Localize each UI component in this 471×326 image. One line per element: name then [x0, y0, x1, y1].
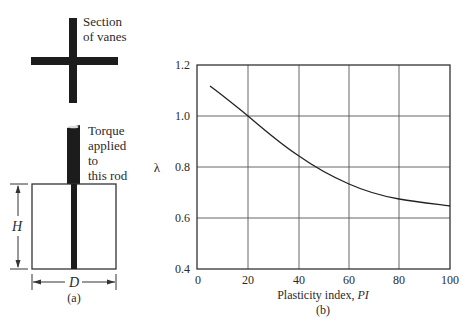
x-tick-0: 0	[195, 273, 201, 287]
x-tick-20: 20	[242, 273, 254, 287]
torque-rod	[67, 125, 80, 184]
x-tick-100: 100	[441, 273, 459, 287]
x-axis-label-text: Plasticity index,	[277, 288, 357, 302]
x-tick-40: 40	[293, 273, 305, 287]
y-tick-1.2: 1.2	[175, 58, 190, 72]
section-label-line2: of vanes	[83, 29, 127, 44]
x-axis-label: Plasticity index, PI	[277, 288, 370, 302]
lambda-curve	[210, 86, 450, 206]
torque-label-line1: Torque	[88, 123, 125, 138]
figure-a-caption: (a)	[67, 291, 80, 305]
y-axis-label: λ	[154, 160, 161, 175]
torque-label-line4: this rod	[88, 168, 128, 183]
vane-rod-inside	[71, 184, 77, 269]
y-tick-0.4: 0.4	[175, 262, 190, 276]
y-tick-0.8: 0.8	[175, 160, 190, 174]
y-tick-0.6: 0.6	[175, 211, 190, 225]
torque-label-line2: applied	[88, 138, 127, 153]
figure-b-caption: (b)	[316, 303, 330, 317]
x-tick-80: 80	[393, 273, 405, 287]
chart-gridlines	[197, 65, 450, 269]
torque-label-line3: to	[88, 153, 98, 168]
diameter-label: D	[68, 275, 79, 290]
figure-canvas: Section of vanes Torque applied to this …	[0, 0, 471, 326]
height-label: H	[11, 219, 23, 234]
vane-horizontal-blade	[31, 57, 118, 65]
y-tick-1.0: 1.0	[175, 109, 190, 123]
section-label-line1: Section	[83, 14, 122, 29]
x-axis-label-symbol: PI	[357, 288, 370, 302]
x-tick-60: 60	[343, 273, 355, 287]
